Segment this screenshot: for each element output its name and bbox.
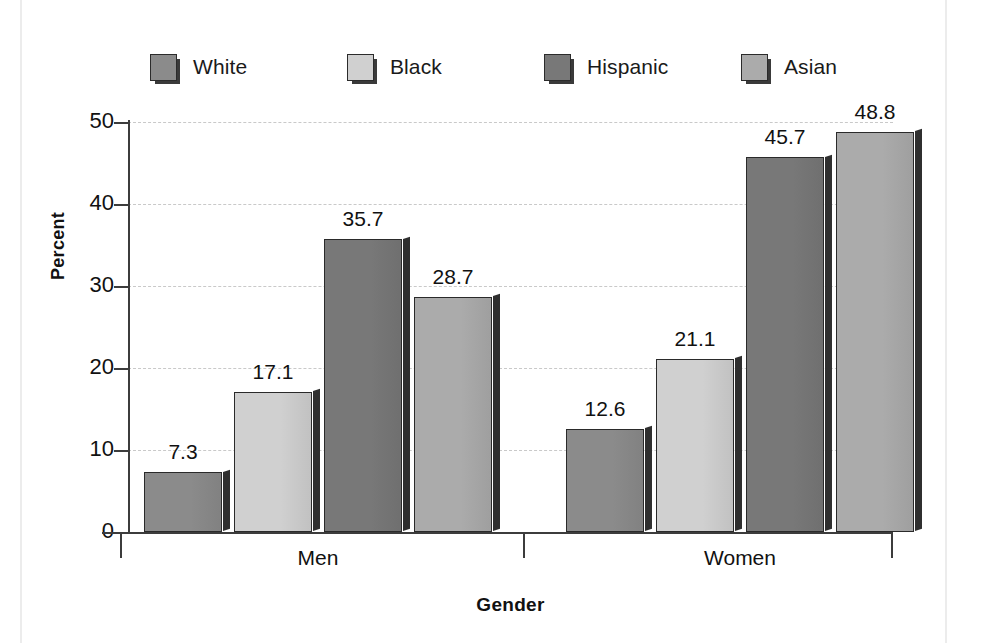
y-tick-label: 0 — [56, 518, 114, 544]
x-group-tick — [120, 532, 122, 558]
bar-asian-men[interactable]: 28.7 — [414, 297, 492, 532]
bar-white-women[interactable]: 12.6 — [566, 429, 644, 532]
bar-side-face — [493, 294, 500, 531]
legend-label-hispanic: Hispanic — [587, 55, 668, 79]
bar-black-men[interactable]: 17.1 — [234, 392, 312, 532]
bar-side-face — [915, 129, 922, 531]
bar-value-label: 48.8 — [855, 100, 896, 124]
page-edge-right — [945, 0, 947, 643]
bar-value-label: 28.7 — [433, 265, 474, 289]
bar-value-label: 17.1 — [253, 360, 294, 384]
legend-item-asian[interactable]: Asian — [741, 54, 938, 81]
bar-asian-women[interactable]: 48.8 — [836, 132, 914, 532]
legend-item-hispanic[interactable]: Hispanic — [544, 54, 741, 81]
y-tick-label: 40 — [56, 190, 114, 216]
bar-white-men[interactable]: 7.3 — [144, 472, 222, 532]
bar-side-face — [223, 469, 230, 531]
legend-swatch-white-icon — [150, 54, 177, 81]
y-tick — [114, 450, 128, 452]
y-tick-label: 50 — [56, 108, 114, 134]
bar-side-face — [313, 389, 320, 531]
bar-value-label: 7.3 — [168, 440, 197, 464]
x-axis-line — [102, 532, 893, 534]
x-group-tick — [891, 532, 893, 558]
y-tick-label: 20 — [56, 354, 114, 380]
legend-swatch-hispanic-icon — [544, 54, 571, 81]
y-tick-label: 10 — [56, 436, 114, 462]
y-tick — [114, 286, 128, 288]
bar-value-label: 21.1 — [675, 327, 716, 351]
y-tick — [114, 204, 128, 206]
chart-legend: White Black Hispanic Asian — [150, 44, 940, 90]
bar-side-face — [735, 356, 742, 531]
y-axis-title: Percent — [48, 212, 69, 280]
y-tick-label: 30 — [56, 272, 114, 298]
bar-value-label: 12.6 — [585, 397, 626, 421]
legend-label-white: White — [193, 55, 247, 79]
x-axis-title: Gender — [128, 594, 893, 616]
page-edge-left — [20, 0, 22, 643]
bar-hispanic-men[interactable]: 35.7 — [324, 239, 402, 532]
legend-label-black: Black — [390, 55, 442, 79]
bar-hispanic-women[interactable]: 45.7 — [746, 157, 824, 532]
bar-side-face — [645, 426, 652, 531]
plot-area: 01020304050 7.317.135.728.712.621.145.74… — [128, 122, 893, 532]
bar-black-women[interactable]: 21.1 — [656, 359, 734, 532]
legend-item-white[interactable]: White — [150, 54, 347, 81]
y-tick — [114, 368, 128, 370]
bar-value-label: 45.7 — [765, 125, 806, 149]
x-group-label-men: Men — [298, 546, 339, 570]
legend-label-asian: Asian — [784, 55, 837, 79]
x-group-tick — [523, 532, 525, 558]
legend-swatch-asian-icon — [741, 54, 768, 81]
legend-item-black[interactable]: Black — [347, 54, 544, 81]
bar-value-label: 35.7 — [343, 207, 384, 231]
bar-chart-figure: White Black Hispanic Asian Percent 01020… — [0, 0, 994, 643]
x-group-label-women: Women — [704, 546, 776, 570]
y-axis-line — [128, 120, 130, 534]
bar-side-face — [825, 154, 832, 531]
y-tick — [114, 122, 128, 124]
legend-swatch-black-icon — [347, 54, 374, 81]
bar-side-face — [403, 236, 410, 531]
gridline — [128, 122, 893, 123]
